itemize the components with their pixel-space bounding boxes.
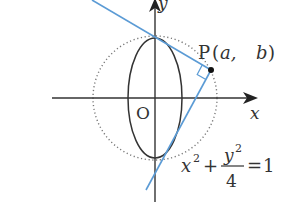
x-axis-label: x: [250, 103, 260, 123]
svg-text:P: P: [198, 42, 210, 63]
tangent-line-1: [92, 0, 211, 70]
svg-text:2: 2: [193, 152, 200, 165]
svg-text:+: +: [203, 155, 218, 176]
svg-text:): ): [268, 42, 275, 63]
ellipse-tangent-diagram: y x O P ( a, b ) x 2 + y 2 4 = 1: [0, 0, 301, 221]
point-p: [208, 67, 214, 73]
origin-label: O: [136, 103, 150, 123]
tangent-line-2: [146, 70, 211, 190]
svg-text:2: 2: [235, 142, 242, 155]
svg-text:y: y: [223, 145, 234, 165]
svg-text:1: 1: [263, 155, 274, 176]
svg-text:=: =: [247, 155, 262, 176]
svg-text:a,: a,: [220, 42, 236, 63]
point-p-label: P ( a, b ): [198, 42, 275, 63]
svg-text:(: (: [212, 42, 219, 63]
y-axis-label: y: [157, 0, 168, 13]
svg-text:x: x: [181, 155, 191, 176]
ellipse-equation: x 2 + y 2 4 = 1: [181, 142, 274, 191]
svg-text:b: b: [256, 42, 268, 63]
svg-text:4: 4: [226, 171, 237, 191]
